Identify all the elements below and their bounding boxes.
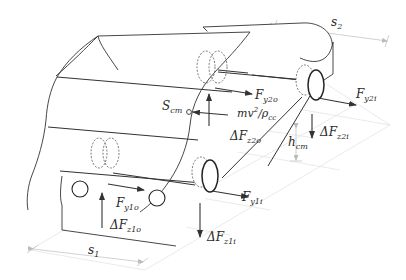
label-s1: s1: [88, 243, 99, 259]
center-of-mass-marker: [187, 110, 192, 115]
label-f-y2i: Fy2i: [355, 87, 377, 103]
label-f-y1i: Fy1i: [241, 190, 263, 206]
vehicle-free-body-diagram: s2 Fy2o Fy2i Scm mv2/ρcc ΔFz2o ΔFz2i hcm…: [0, 0, 406, 280]
label-df-z1i: ΔFz1i: [206, 230, 236, 246]
headlight-left: [72, 181, 88, 197]
headlight-right: [149, 190, 165, 206]
label-s2: s2: [331, 15, 342, 31]
arrow-f-y2i: [318, 98, 356, 105]
label-df-z2i: ΔFz2i: [319, 125, 349, 141]
